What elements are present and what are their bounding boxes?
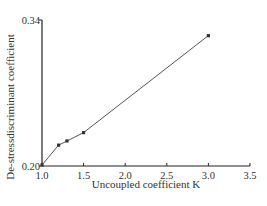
x-axis-label: Uncoupled coefficient K	[92, 178, 201, 190]
data-point-marker	[82, 131, 85, 134]
data-point-marker	[40, 163, 43, 166]
series-line	[42, 36, 208, 165]
axis-ticks: 1.01.52.02.53.03.50.200.34	[22, 15, 257, 181]
y-tick-label: 0.34	[22, 15, 41, 26]
data-series	[40, 34, 210, 167]
y-axis-label: De-stressdiscriminant coefficient	[4, 34, 16, 180]
x-tick-label: 1.5	[77, 170, 90, 181]
chart-canvas: 1.01.52.02.53.03.50.200.34 Uncoupled coe…	[0, 0, 267, 206]
axes	[42, 20, 250, 166]
x-tick-label: 3.0	[202, 170, 215, 181]
line-chart: 1.01.52.02.53.03.50.200.34 Uncoupled coe…	[0, 0, 267, 206]
data-point-marker	[57, 144, 60, 147]
y-tick-label: 0.20	[22, 161, 40, 172]
data-point-marker	[207, 34, 210, 37]
x-tick-label: 3.5	[243, 170, 256, 181]
data-point-marker	[65, 139, 68, 142]
